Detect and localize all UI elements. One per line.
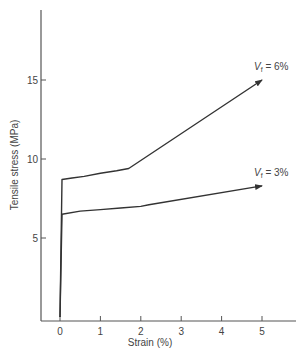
y-tick-label: 5 [32,233,38,244]
series-line-1 [60,80,262,317]
y-tick-label: 15 [27,75,39,86]
data-lines [60,80,262,317]
series-label-2: Vf = 3% [254,167,289,179]
axes [41,10,296,321]
x-tick-label: 3 [178,326,184,337]
x-tick-label: 5 [259,326,265,337]
series-line-2 [60,186,262,317]
x-tick-label: 0 [57,326,63,337]
x-tick-label: 4 [219,326,225,337]
y-tick-label: 10 [27,154,39,165]
stress-strain-chart: 51015012345Strain (%)Tensile stress (MPa… [0,0,308,356]
x-axis-label: Strain (%) [128,337,172,348]
series-label-1: Vf = 6% [254,61,289,73]
x-tick-label: 1 [98,326,104,337]
x-tick-label: 2 [138,326,144,337]
y-axis-label: Tensile stress (MPa) [9,120,20,211]
